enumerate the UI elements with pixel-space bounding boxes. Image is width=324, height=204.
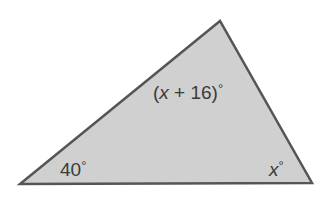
triangle-diagram: (x + 16)° 40° x° bbox=[0, 0, 324, 204]
angle-label-top: (x + 16)° bbox=[153, 81, 223, 103]
